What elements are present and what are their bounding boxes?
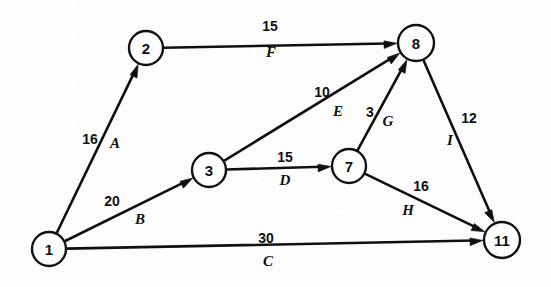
- edge-line-G: [357, 68, 402, 151]
- edge-line-A: [57, 73, 135, 234]
- edge-name-I: I: [446, 132, 454, 148]
- edge-weight-B: 20: [104, 193, 120, 209]
- node-7[interactable]: 7: [332, 149, 366, 183]
- edge-name-C: C: [263, 253, 274, 269]
- edge-name-E: E: [332, 103, 343, 119]
- edge-name-F: F: [265, 44, 276, 60]
- edge-weight-H: 16: [413, 178, 429, 194]
- node-3[interactable]: 3: [192, 153, 226, 187]
- node-label-11: 11: [494, 232, 510, 249]
- edge-weight-E: 10: [314, 84, 330, 100]
- edge-weight-C: 30: [258, 230, 274, 246]
- node-1[interactable]: 1: [32, 232, 66, 266]
- edge-weight-F: 15: [262, 18, 278, 34]
- edge-line-I: [423, 60, 490, 214]
- edge-name-G: G: [383, 113, 394, 129]
- arrow-head-C: [470, 238, 483, 246]
- edge-name-B: B: [134, 211, 145, 227]
- edge-weight-D: 15: [277, 149, 293, 165]
- edge-weight-A: 16: [82, 131, 98, 147]
- edge-line-B: [65, 182, 185, 241]
- edge-line-D: [226, 167, 321, 170]
- node-label-7: 7: [345, 158, 353, 175]
- edge-F: [163, 41, 397, 49]
- edge-name-D: D: [279, 172, 291, 188]
- edge-D: [226, 164, 331, 172]
- edge-C: [66, 238, 483, 249]
- arrow-head-I: [485, 210, 495, 223]
- node-label-8: 8: [412, 35, 420, 52]
- node-8[interactable]: 8: [398, 25, 434, 61]
- node-2[interactable]: 2: [129, 31, 163, 65]
- edge-B: [65, 178, 193, 241]
- edge-I: [423, 60, 494, 223]
- node-11[interactable]: 11: [484, 222, 520, 258]
- arrow-head-E: [387, 53, 400, 64]
- edge-weight-G: 3: [366, 104, 374, 120]
- edges-layer: [57, 41, 495, 249]
- edge-name-A: A: [109, 135, 120, 151]
- node-label-1: 1: [45, 241, 53, 258]
- edge-name-H: H: [401, 202, 415, 218]
- diagram-canvas: 1237811 16A20B30C15D10E15F3G16H12I: [0, 0, 551, 287]
- arrow-head-D: [318, 164, 331, 172]
- node-label-2: 2: [142, 40, 150, 57]
- node-label-3: 3: [205, 162, 213, 179]
- edge-A: [57, 64, 139, 233]
- edge-weight-I: 12: [461, 110, 477, 126]
- arrow-head-B: [180, 178, 193, 188]
- arrow-head-F: [384, 41, 397, 49]
- network-diagram: 1237811 16A20B30C15D10E15F3G16H12I: [0, 0, 551, 287]
